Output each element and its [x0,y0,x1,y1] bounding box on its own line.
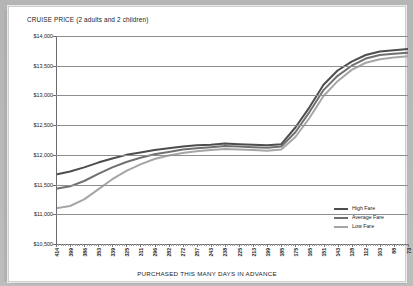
x-minor-tick [75,244,76,246]
x-minor-tick [319,244,320,246]
x-minor-tick [279,244,280,246]
x-minor-tick [209,244,210,246]
x-minor-tick [377,244,378,246]
x-minor-tick [396,244,397,246]
x-minor-tick [216,244,217,246]
x-tick-label: 325 [124,248,130,257]
x-tick-label: 199 [265,248,271,257]
x-minor-tick [79,244,80,246]
x-minor-tick [223,244,224,246]
x-minor-tick [316,244,317,246]
x-tick-label: 272 [180,248,186,257]
x-minor-tick [145,244,146,246]
y-tick-label: $13,000 [34,92,54,98]
x-minor-tick [258,244,259,246]
x-minor-tick [187,244,188,246]
x-minor-tick [180,244,181,246]
x-minor-tick [389,244,390,246]
x-tick-label: 238 [222,248,228,257]
x-minor-tick [288,244,289,246]
y-tick-label: $14,000 [34,33,54,39]
x-minor-tick [87,244,88,246]
x-tick-label: 112 [363,248,369,256]
x-minor-tick [230,244,231,246]
x-minor-tick [103,244,104,246]
legend-label: Average Fare [352,214,384,220]
y-tick-label: $13,500 [34,63,54,69]
legend-item: Low Fare [334,223,406,232]
x-minor-tick [284,244,285,246]
gridline [56,66,408,67]
x-minor-tick [159,244,160,246]
x-minor-tick [129,244,130,246]
x-minor-tick [370,244,371,246]
x-minor-tick [117,244,118,246]
x-minor-tick [361,244,362,246]
x-minor-tick [94,244,95,246]
x-tick-label: 73 [406,248,412,254]
x-tick-label: 353 [96,248,102,257]
legend-label: Low Fare [352,223,374,229]
x-minor-tick [101,244,102,246]
y-tick-label: $12,500 [34,122,54,128]
x-minor-tick [185,244,186,246]
x-minor-tick [108,244,109,246]
x-minor-tick [138,244,139,246]
x-minor-tick [218,244,219,246]
x-minor-tick [293,244,294,246]
x-tick-label: 175 [293,248,299,257]
x-minor-tick [77,244,78,246]
x-minor-tick [265,244,266,246]
x-minor-tick [248,244,249,246]
x-minor-tick [204,244,205,246]
x-tick-mark [394,244,395,247]
x-minor-tick [148,244,149,246]
x-minor-tick [387,244,388,246]
x-minor-tick [96,244,97,246]
x-minor-tick [300,244,301,246]
gridline [56,125,408,126]
x-minor-tick [277,244,278,246]
x-minor-tick [241,244,242,246]
legend-label: High Fare [352,205,375,211]
x-tick-label: 151 [321,248,327,257]
x-tick-label: 282 [166,248,172,257]
x-minor-tick [178,244,179,246]
x-minor-tick [143,244,144,246]
y-tick-label: $12,000 [34,152,54,158]
x-minor-tick [232,244,233,246]
x-minor-tick [173,244,174,246]
x-minor-tick [227,244,228,246]
x-minor-tick [162,244,163,246]
y-tick-label: $10,500 [34,241,54,247]
x-tick-label: 257 [194,248,200,257]
x-minor-tick [61,244,62,246]
x-minor-tick [326,244,327,246]
x-minor-tick [152,244,153,246]
x-minor-tick [220,244,221,246]
x-minor-tick [237,244,238,246]
x-minor-tick [82,244,83,246]
x-minor-tick [119,244,120,246]
x-minor-tick [194,244,195,246]
x-minor-tick [342,244,343,246]
x-minor-tick [401,244,402,246]
x-minor-tick [199,244,200,246]
x-axis-labels: 4143993863533393253112962822722572432382… [56,248,408,270]
x-minor-tick [131,244,132,246]
x-minor-tick [171,244,172,246]
x-minor-tick [307,244,308,246]
x-minor-tick [345,244,346,246]
x-minor-tick [333,244,334,246]
x-minor-tick [234,244,235,246]
x-minor-tick [213,244,214,246]
x-tick-label: 339 [110,248,116,257]
x-minor-tick [72,244,73,246]
x-minor-tick [150,244,151,246]
x-minor-tick [328,244,329,246]
x-tick-label: 128 [349,248,355,257]
x-minor-tick [335,244,336,246]
x-tick-label: 88 [391,248,397,254]
y-axis-labels: $14,000$13,500$13,000$12,500$12,000$11,5… [9,36,53,246]
x-minor-tick [291,244,292,246]
